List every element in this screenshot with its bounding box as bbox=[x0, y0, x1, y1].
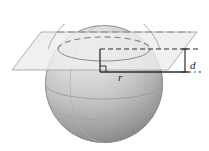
distance-label: d bbox=[190, 60, 196, 71]
sphere-plane-figure: r d bbox=[0, 0, 209, 151]
cutting-plane bbox=[12, 32, 197, 70]
distance-dimension bbox=[182, 49, 189, 72]
figure-canvas bbox=[0, 0, 209, 151]
plane-parallelogram bbox=[12, 32, 197, 70]
radius-label: r bbox=[118, 72, 122, 83]
